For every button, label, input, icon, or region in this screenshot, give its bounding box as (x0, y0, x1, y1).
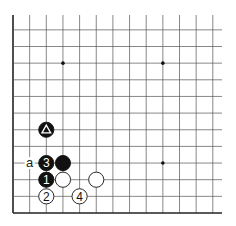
star-point-icon (161, 61, 165, 65)
white-stone-white-plain-2 (89, 172, 104, 187)
white-stone-icon (89, 172, 104, 187)
white-stone-icon (55, 172, 70, 187)
black-stone-black-plain (55, 155, 70, 170)
star-point-icon (161, 161, 165, 165)
white-stone-move-2: 2 (39, 189, 54, 204)
point-label-point-a: a (26, 155, 34, 170)
black-stone-triangle-black (39, 122, 54, 137)
white-stone-white-plain-1 (55, 172, 70, 187)
move-number-label: 3 (43, 156, 50, 170)
go-board-diagram: 3124 a (0, 0, 236, 226)
labels-layer: a (25, 155, 35, 170)
black-stone-icon (55, 155, 70, 170)
move-number-label: 2 (43, 190, 50, 204)
black-stone-move-1: 1 (39, 172, 54, 187)
star-point-icon (61, 61, 65, 65)
move-number-label: 4 (76, 190, 83, 204)
move-number-label: 1 (43, 173, 50, 187)
white-stone-move-4: 4 (72, 189, 87, 204)
black-stone-move-3: 3 (39, 155, 54, 170)
